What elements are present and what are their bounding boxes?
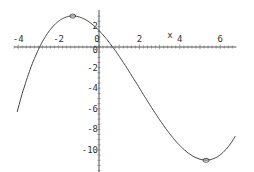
y-tick-label: -8 (87, 124, 98, 134)
x-tick-label: 0 (94, 34, 99, 44)
x-tick-label: 6 (217, 34, 222, 44)
y-tick-label: -10 (82, 145, 98, 155)
function-plot: -4-2024620-2-4-6-8-10x (0, 0, 254, 172)
x-axis-label: x (167, 30, 173, 40)
function-curve (17, 16, 235, 160)
y-tick-label: -6 (87, 104, 98, 114)
y-tick-label: -2 (87, 63, 98, 73)
x-tick-label: 4 (177, 34, 182, 44)
x-tick-label: 2 (137, 34, 142, 44)
x-tick-label: -4 (13, 34, 24, 44)
x-tick-label: -2 (53, 34, 64, 44)
y-tick-label: -4 (87, 83, 98, 93)
y-tick-label: 0 (93, 45, 98, 55)
